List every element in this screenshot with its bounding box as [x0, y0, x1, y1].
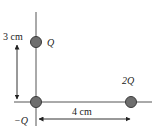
charge-diagram: 3 cm 4 cm Q −Q 2Q — [0, 0, 160, 129]
charge-neg-q-icon — [31, 97, 42, 108]
charge-2q-label: 2Q — [122, 75, 135, 86]
charge-neg-q-label: −Q — [14, 115, 29, 126]
vertical-dimension-label: 3 cm — [3, 31, 23, 42]
charge-q-icon — [31, 37, 42, 48]
charge-q-label: Q — [47, 37, 55, 48]
charge-2q-icon — [126, 97, 137, 108]
horizontal-dimension-label: 4 cm — [72, 106, 92, 117]
